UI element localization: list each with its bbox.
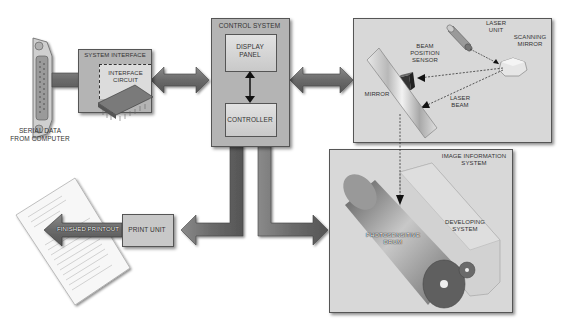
- print-unit-label: PRINT UNIT: [122, 226, 172, 234]
- finished-printout-label: FINISHED PRINTOUT: [54, 226, 122, 233]
- image-system-graphics: [0, 0, 567, 324]
- developer-roller-icon: [459, 262, 475, 278]
- laser-printer-diagram: SYSTEM INTERFACE INTERFACE CIRCUIT SERIA…: [0, 0, 567, 324]
- developing-system-label-2: SYSTEM: [440, 226, 490, 233]
- photosensitive-drum-label-2: DRUM: [363, 239, 423, 246]
